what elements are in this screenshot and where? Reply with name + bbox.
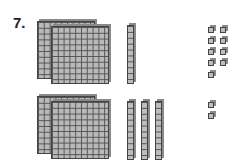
hundreds-flat	[51, 101, 109, 159]
ones-unit	[220, 27, 226, 33]
ones-unit	[208, 49, 214, 55]
ones-unit	[220, 38, 226, 44]
ones-unit	[208, 102, 214, 108]
ones-unit	[220, 49, 226, 55]
tens-rod	[127, 101, 134, 160]
hundreds-flat	[51, 26, 109, 84]
tens-rod	[155, 101, 162, 160]
ones-unit	[208, 60, 214, 66]
ones-unit	[208, 38, 214, 44]
tens-rod	[141, 101, 148, 160]
problem-number: 7.	[13, 14, 26, 31]
ones-unit	[208, 72, 214, 78]
ones-unit	[208, 27, 214, 33]
ones-unit	[208, 113, 214, 119]
ones-unit	[220, 60, 226, 66]
tens-rod	[127, 25, 134, 84]
